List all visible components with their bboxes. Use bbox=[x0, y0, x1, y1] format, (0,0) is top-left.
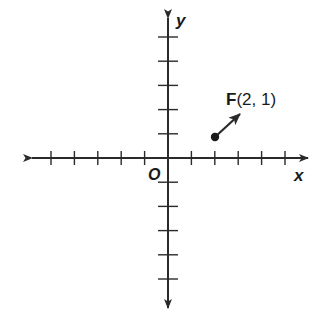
point-f-label: F(2, 1) bbox=[226, 90, 276, 109]
point-f-coords: (2, 1) bbox=[236, 90, 276, 109]
point-f-direction-arrow bbox=[215, 114, 240, 137]
point-f-name: F bbox=[226, 90, 236, 109]
point-f: F(2, 1) bbox=[211, 90, 276, 141]
y-axis-label: y bbox=[175, 11, 187, 30]
x-axis-label: x bbox=[293, 166, 305, 185]
coordinate-plane-svg: y x O F(2, 1) bbox=[0, 0, 320, 334]
origin-label: O bbox=[148, 166, 161, 183]
point-f-dot bbox=[211, 133, 219, 141]
coordinate-plane: y x O F(2, 1) bbox=[0, 0, 320, 334]
